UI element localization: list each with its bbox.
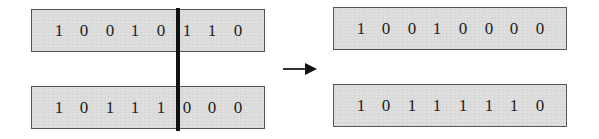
bit: 0 xyxy=(231,98,245,118)
bit: 1 xyxy=(103,98,117,118)
bit: 1 xyxy=(154,98,168,118)
bit: 0 xyxy=(456,19,470,39)
bit: 0 xyxy=(533,19,547,39)
parent-1-chromosome: 1 0 0 1 0 1 1 0 xyxy=(31,9,265,52)
bit: 0 xyxy=(103,21,117,41)
bit: 1 xyxy=(180,21,194,41)
bit: 0 xyxy=(77,98,91,118)
bit: 0 xyxy=(379,19,393,39)
bit: 0 xyxy=(379,96,393,116)
bit: 0 xyxy=(205,98,219,118)
crossover-point-line xyxy=(176,8,180,131)
bit: 1 xyxy=(482,96,496,116)
bit: 1 xyxy=(456,96,470,116)
bit: 1 xyxy=(354,19,368,39)
bit: 0 xyxy=(231,21,245,41)
bit: 1 xyxy=(52,98,66,118)
bit: 1 xyxy=(205,21,219,41)
bit: 1 xyxy=(507,96,521,116)
bit: 0 xyxy=(77,21,91,41)
bit: 0 xyxy=(154,21,168,41)
parent-2-chromosome: 1 0 1 1 1 0 0 0 xyxy=(31,86,265,129)
bit: 0 xyxy=(507,19,521,39)
bit: 0 xyxy=(482,19,496,39)
arrow-right-icon xyxy=(283,68,307,70)
bit: 1 xyxy=(430,19,444,39)
bit: 0 xyxy=(533,96,547,116)
bit: 0 xyxy=(180,98,194,118)
bit: 1 xyxy=(430,96,444,116)
offspring-2-chromosome: 1 0 1 1 1 1 1 0 xyxy=(333,84,567,127)
bit: 1 xyxy=(405,96,419,116)
bit: 1 xyxy=(128,21,142,41)
arrowhead-icon xyxy=(305,63,317,75)
offspring-1-chromosome: 1 0 0 1 0 0 0 0 xyxy=(333,7,567,50)
bit: 1 xyxy=(128,98,142,118)
bit: 1 xyxy=(52,21,66,41)
bit: 0 xyxy=(405,19,419,39)
bit: 1 xyxy=(354,96,368,116)
